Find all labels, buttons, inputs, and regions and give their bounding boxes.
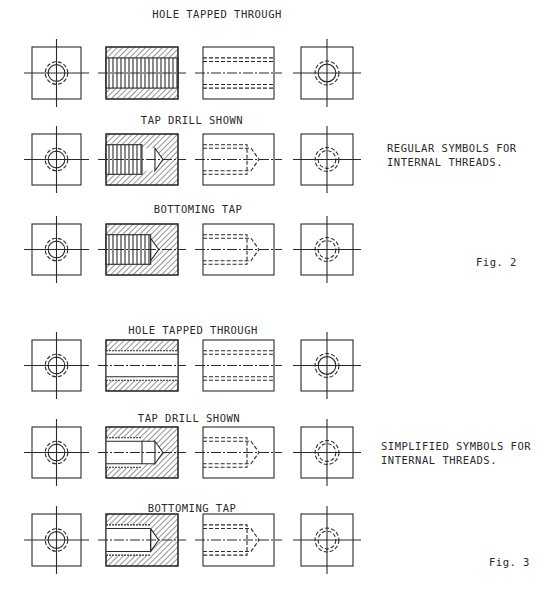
fig3-row3-section-view <box>98 514 186 566</box>
fig2-row3-section-view <box>98 224 186 275</box>
fig3-row2-hidden-view <box>195 427 282 478</box>
fig2-row2-section-view <box>98 134 186 185</box>
fig2-row2-left-end-view <box>24 126 89 193</box>
fig3-row3-left-end-view <box>24 506 89 574</box>
fig2-row1-section-view <box>98 47 186 99</box>
fig2-row1-right-end-view <box>293 39 361 107</box>
fig3-row2-section-view <box>98 427 186 478</box>
fig2-row3-hidden-view <box>195 224 282 275</box>
fig2-row3-right-end-view <box>293 216 361 283</box>
fig2-row2-hidden-view <box>195 134 282 185</box>
fig3-row1-right-end-view <box>293 332 361 399</box>
fig3-row3-hidden-view <box>195 514 282 566</box>
fig3-row2-left-end-view <box>24 419 89 486</box>
thread-symbols-drawing <box>0 0 557 594</box>
fig2-row2-right-end-view <box>293 126 361 193</box>
fig2-row3-left-end-view <box>24 216 89 283</box>
fig3-row1-hidden-view <box>195 340 282 391</box>
fig3-row1-left-end-view <box>24 332 89 399</box>
fig2-row1-hidden-view <box>195 47 282 99</box>
fig3-row2-right-end-view <box>293 419 361 486</box>
fig3-row3-right-end-view <box>293 506 361 574</box>
fig2-row1-left-end-view <box>24 39 89 107</box>
fig3-row1-section-view <box>98 340 186 391</box>
